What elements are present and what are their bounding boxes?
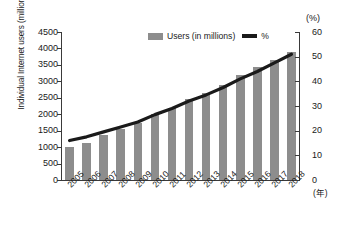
y2-axis-tick-label: 20 bbox=[312, 126, 338, 135]
y-axis-tick-mark bbox=[57, 98, 62, 99]
legend-item-percent: % bbox=[242, 31, 269, 41]
y2-axis-tick-label: 30 bbox=[312, 102, 338, 111]
y2-axis-tick-mark bbox=[295, 81, 300, 82]
y2-axis-tick-mark bbox=[295, 106, 300, 107]
y2-axis-tick-label: 0 bbox=[312, 176, 338, 185]
legend-label-users: Users (in millions) bbox=[167, 31, 235, 41]
chart-legend: Users (in millions) % bbox=[148, 31, 269, 41]
y-axis-tick-mark bbox=[57, 164, 62, 165]
y-axis-tick-label: 500 bbox=[24, 159, 58, 168]
y-axis-tick-label: 0 bbox=[24, 176, 58, 185]
y-axis-tick-mark bbox=[57, 48, 62, 49]
y2-axis-tick-mark bbox=[295, 155, 300, 156]
y-axis-tick-label: 1500 bbox=[24, 126, 58, 135]
y2-axis-tick-label: 40 bbox=[312, 77, 338, 86]
y-axis-tick-mark bbox=[57, 81, 62, 82]
y2-axis-tick-label: 10 bbox=[312, 151, 338, 160]
y-axis-tick-mark bbox=[57, 180, 62, 181]
legend-label-percent: % bbox=[261, 31, 269, 41]
legend-bar-swatch-icon bbox=[148, 33, 163, 40]
y-axis-tick-label: 3500 bbox=[24, 60, 58, 69]
y2-axis-tick-mark bbox=[295, 57, 300, 58]
y-axis-tick-mark bbox=[57, 114, 62, 115]
y-axis-tick-mark bbox=[57, 32, 62, 33]
y-axis-tick-mark bbox=[57, 147, 62, 148]
legend-item-users: Users (in millions) bbox=[148, 31, 235, 41]
y2-axis-tick-label: 50 bbox=[312, 52, 338, 61]
legend-line-swatch-icon bbox=[242, 34, 257, 37]
y-axis-tick-label: 2000 bbox=[24, 110, 58, 119]
y-axis-tick-label: 2500 bbox=[24, 93, 58, 102]
y2-axis-tick-mark bbox=[295, 131, 300, 132]
x-axis-unit-label: (年) bbox=[313, 186, 328, 198]
chart-container: Individual Internet users (millions) (%)… bbox=[0, 0, 346, 225]
y2-axis-tick-label: 60 bbox=[312, 28, 338, 37]
plot-area bbox=[61, 32, 300, 180]
y-axis-tick-mark bbox=[57, 131, 62, 132]
y-axis-tick-label: 4000 bbox=[24, 44, 58, 53]
y-axis-tick-label: 4500 bbox=[24, 28, 58, 37]
y-axis-tick-label: 1000 bbox=[24, 143, 58, 152]
y-axis-tick-label: 3000 bbox=[24, 77, 58, 86]
y-axis-tick-labels: 050010001500200025003000350040004500 bbox=[24, 0, 58, 225]
y2-axis-tick-mark bbox=[295, 32, 300, 33]
y2-axis-tick-mark bbox=[295, 180, 300, 181]
y-axis-tick-mark bbox=[57, 65, 62, 66]
percent-line-series bbox=[61, 32, 300, 180]
